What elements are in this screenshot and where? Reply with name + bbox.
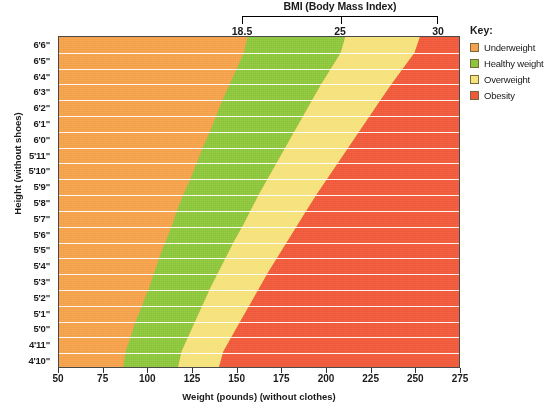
bmi-header-title: BMI (Body Mass Index) [242, 0, 438, 12]
legend-item-label: Underweight [484, 42, 535, 53]
legend-items: UnderweightHealthy weightOverweightObesi… [470, 42, 555, 101]
plot-area [58, 36, 460, 368]
legend-item-label: Overweight [484, 74, 530, 85]
x-axis-tick-label: 175 [273, 373, 290, 384]
y-axis-tick-label: 5'8" [33, 197, 50, 208]
x-axis-tick-label: 250 [407, 373, 424, 384]
y-axis-tick-label: 5'6" [33, 228, 50, 239]
legend-swatch-icon [470, 75, 479, 84]
y-axis-labels: 6'6"6'5"6'4"6'3"6'2"6'1"6'0"5'11"5'10"5'… [0, 36, 54, 368]
x-axis-title: Weight (pounds) (without clothes) [58, 391, 460, 402]
x-axis-tick-label: 100 [139, 373, 156, 384]
legend-item-underweight: Underweight [470, 42, 555, 53]
legend-item-obesity: Obesity [470, 90, 555, 101]
y-axis-tick-label: 4'11" [29, 339, 50, 350]
legend-item-label: Obesity [484, 90, 515, 101]
x-axis-tick-label: 50 [52, 373, 63, 384]
y-axis-tick-label: 6'6" [33, 38, 50, 49]
y-axis-tick-label: 6'3" [33, 86, 50, 97]
bmi-color-bands [59, 37, 459, 367]
x-axis-tick-label: 75 [97, 373, 108, 384]
y-axis-tick-label: 5'5" [33, 244, 50, 255]
x-axis-tick-label: 150 [228, 373, 245, 384]
y-axis-tick-label: 6'1" [33, 117, 50, 128]
y-axis-tick-label: 6'2" [33, 102, 50, 113]
x-axis-tick-label: 275 [452, 373, 469, 384]
x-axis-tick-label: 200 [318, 373, 335, 384]
legend-item-overweight: Overweight [470, 74, 555, 85]
y-axis-tick-label: 6'4" [33, 70, 50, 81]
legend-swatch-icon [470, 59, 479, 68]
y-axis-tick-label: 5'9" [33, 181, 50, 192]
x-axis-tick-label: 225 [362, 373, 379, 384]
legend-swatch-icon [470, 91, 479, 100]
bmi-bracket-mid-tick [341, 16, 342, 24]
legend: Key: UnderweightHealthy weightOverweight… [470, 24, 555, 106]
y-axis-tick-label: 5'3" [33, 276, 50, 287]
bmi-chart: BMI (Body Mass Index) 18.52530 6'6"6'5"6… [0, 0, 555, 410]
y-axis-tick-label: 5'7" [33, 212, 50, 223]
y-axis-tick-label: 5'4" [33, 260, 50, 271]
y-axis-tick-label: 5'11" [29, 149, 50, 160]
y-axis-tick-label: 5'2" [33, 291, 50, 302]
y-axis-title: Height (without shoes) [12, 69, 23, 259]
x-axis-tick-label: 125 [184, 373, 201, 384]
y-axis-tick-label: 6'5" [33, 54, 50, 65]
y-axis-tick-label: 6'0" [33, 133, 50, 144]
legend-item-label: Healthy weight [484, 58, 544, 69]
y-axis-tick-label: 5'0" [33, 323, 50, 334]
y-axis-tick-label: 5'1" [33, 307, 50, 318]
y-axis-tick-label: 4'10" [28, 355, 50, 366]
x-axis-labels: 5075100125150175200225250275 [58, 373, 460, 387]
bmi-bracket [242, 16, 438, 24]
legend-title: Key: [470, 24, 555, 36]
legend-swatch-icon [470, 43, 479, 52]
y-axis-tick-label: 5'10" [28, 165, 50, 176]
legend-item-healthy-weight: Healthy weight [470, 58, 555, 69]
